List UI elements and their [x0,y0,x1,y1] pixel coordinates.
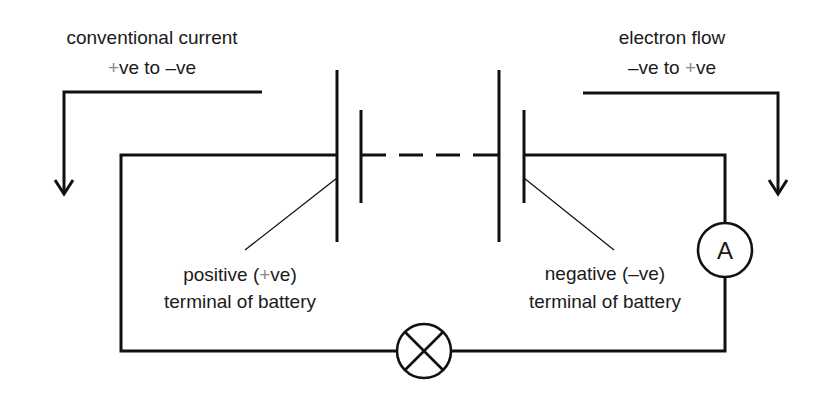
svg-text:negative (–ve): negative (–ve) [545,263,665,284]
conventional-current-direction: +ve to –ve [108,57,196,78]
svg-text:positive (+ve): positive (+ve) [183,264,297,285]
lamp-icon [397,324,451,378]
circuit-wires [121,155,725,351]
conventional-current-title: conventional current [66,27,238,48]
svg-text:terminal of battery: terminal of battery [164,291,317,312]
svg-text:A: A [717,237,733,264]
circuit-diagram: conventional current +ve to –ve electron… [0,0,822,396]
positive-terminal-pointer [245,178,337,250]
electron-flow-arrow-icon [583,93,787,194]
electron-flow-label: electron flow –ve to +ve [619,27,726,78]
electron-flow-title: electron flow [619,27,726,48]
negative-terminal-label: negative (–ve) terminal of battery [529,263,682,312]
svg-text:terminal of battery: terminal of battery [529,291,682,312]
positive-terminal-label: positive (+ve) terminal of battery [164,264,317,312]
battery [337,70,524,242]
electron-flow-direction: –ve to +ve [628,57,716,78]
negative-terminal-pointer [524,178,614,250]
conventional-current-label: conventional current +ve to –ve [66,27,238,78]
conventional-current-arrow-icon [55,92,262,194]
ammeter-icon: A [698,223,752,277]
